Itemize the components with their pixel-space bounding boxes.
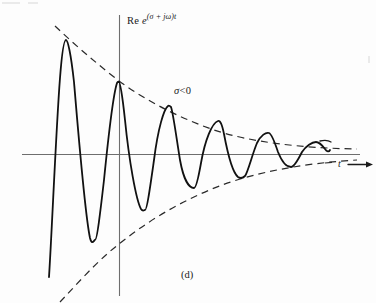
expression-exponent: (σ + jω)t xyxy=(147,12,177,21)
y-axis-expression-label: Re e(σ + jω)t xyxy=(127,13,176,26)
expression-prefix: Re xyxy=(127,15,139,26)
sigma-condition-annotation: σ<0 xyxy=(174,86,191,97)
scan-artifact-right xyxy=(368,56,370,63)
t-axis-arrow-head xyxy=(366,162,373,168)
sigma-value: 0 xyxy=(186,85,192,96)
t-axis-label: t xyxy=(338,159,341,169)
scan-artifact-top-left xyxy=(2,2,20,4)
curve-end-tip xyxy=(320,140,331,142)
figure-caption: (d) xyxy=(181,270,193,281)
upper-envelope-curve xyxy=(55,26,357,149)
damped-sinusoid-curve xyxy=(49,40,330,277)
scan-artifact-top-left-2 xyxy=(28,2,38,4)
figure-plot xyxy=(0,0,376,303)
figure-container: Re e(σ + jω)t σ<0 t (d) xyxy=(0,0,376,303)
